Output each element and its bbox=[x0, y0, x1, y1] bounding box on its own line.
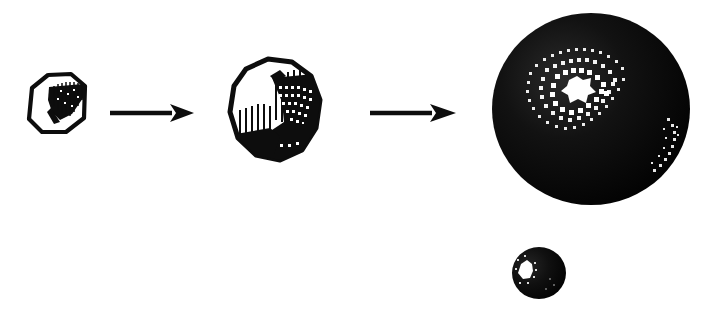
shape-faceted-cube bbox=[14, 62, 106, 152]
rounded-blob-drawing bbox=[210, 42, 350, 182]
large-sphere-body bbox=[492, 13, 690, 205]
shape-shaded-sphere-small bbox=[503, 238, 575, 308]
shape-rounded-polygon-blob bbox=[210, 42, 350, 182]
arrow-right-2 bbox=[362, 96, 462, 130]
arrow-right-1-glyph bbox=[106, 96, 198, 130]
small-sphere-drawing bbox=[503, 238, 575, 308]
faceted-cube-drawing bbox=[14, 62, 106, 152]
arrow-right-2-glyph bbox=[362, 96, 462, 130]
large-sphere-drawing bbox=[487, 6, 697, 212]
figure-canvas bbox=[0, 0, 709, 314]
arrow-right-1 bbox=[106, 96, 198, 130]
shape-shaded-sphere-large bbox=[487, 6, 697, 212]
